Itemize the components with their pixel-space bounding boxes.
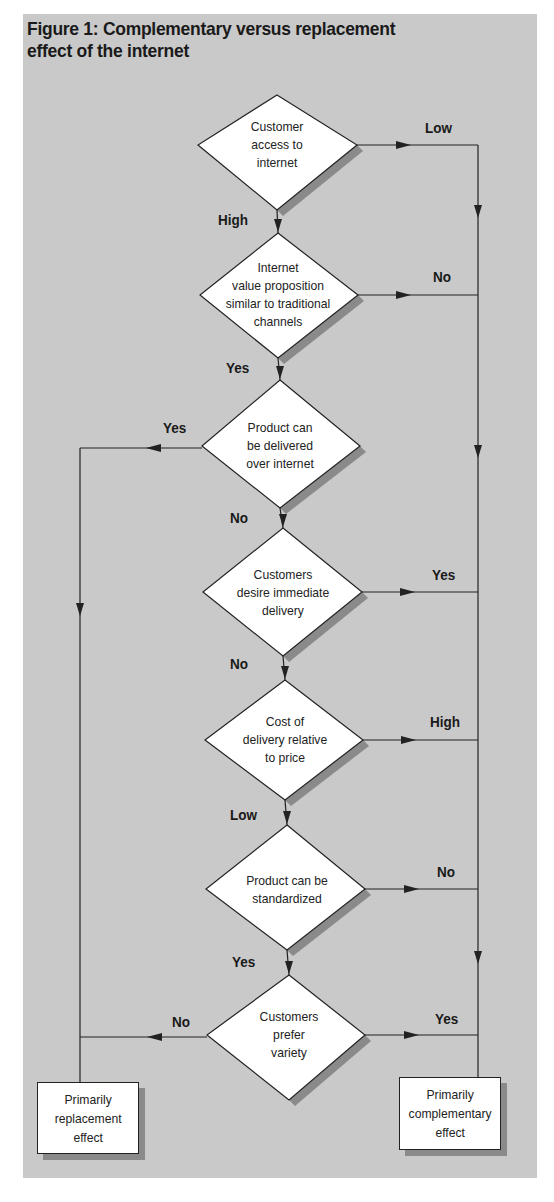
text-line: similar to traditional — [211, 295, 346, 313]
edge-label-yes: Yes — [163, 419, 186, 436]
text-line: internet — [223, 154, 331, 172]
text-line: effect — [408, 1123, 491, 1142]
decision-text-customer-access: Customer access to internet — [223, 118, 331, 172]
text-line: replacement — [55, 1109, 122, 1128]
text-line: Cost of — [222, 713, 348, 731]
text-line: channels — [211, 313, 346, 331]
edge-label-yes: Yes — [232, 953, 255, 970]
edge-label-high: High — [218, 211, 248, 228]
text-line: variety — [235, 1044, 343, 1062]
text-line: prefer — [235, 1026, 343, 1044]
text-line: Product can — [226, 419, 334, 437]
text-line: delivery — [220, 602, 346, 620]
text-line: delivery relative — [222, 731, 348, 749]
text-line: Customers — [235, 1008, 343, 1026]
text-line: Primarily — [408, 1085, 491, 1104]
outcome-text: Primarily complementary effect — [408, 1085, 491, 1142]
edge-label-yes: Yes — [435, 1010, 458, 1027]
edge-label-no: No — [230, 655, 248, 672]
outcome-box-replacement: Primarily replacement effect — [37, 1082, 139, 1154]
decision-text-prefer-variety: Customers prefer variety — [235, 1008, 343, 1062]
text-line: access to — [223, 136, 331, 154]
edge-label-low: Low — [425, 119, 452, 136]
decision-text-deliverable-online: Product can be delivered over internet — [226, 419, 334, 473]
edge-label-yes: Yes — [226, 359, 249, 376]
text-line: Internet — [211, 259, 346, 277]
text-line: complementary — [408, 1104, 491, 1123]
text-line: Customers — [220, 566, 346, 584]
edge-label-low: Low — [230, 806, 257, 823]
edge-label-high: High — [430, 713, 460, 730]
text-line: effect — [55, 1128, 122, 1147]
text-line: desire immediate — [220, 584, 346, 602]
outcome-box-complementary: Primarily complementary effect — [399, 1077, 501, 1150]
edge-label-no: No — [230, 509, 248, 526]
decision-text-immediate-delivery: Customers desire immediate delivery — [220, 566, 346, 620]
text-line: over internet — [226, 455, 334, 473]
edge-label-no: No — [437, 863, 455, 880]
decision-text-delivery-cost: Cost of delivery relative to price — [222, 713, 348, 767]
edge-label-yes: Yes — [432, 566, 455, 583]
text-line: be delivered — [226, 437, 334, 455]
edge-label-no: No — [172, 1013, 190, 1030]
edge-label-no: No — [433, 268, 451, 285]
decision-text-value-proposition: Internet value proposition similar to tr… — [211, 259, 346, 331]
text-line: Customer — [223, 118, 331, 136]
text-line: standardized — [224, 890, 350, 908]
text-line: to price — [222, 749, 348, 767]
text-line: Product can be — [224, 872, 350, 890]
text-line: Primarily — [55, 1090, 122, 1109]
decision-text-standardized: Product can be standardized — [224, 872, 350, 908]
outcome-text: Primarily replacement effect — [55, 1090, 122, 1147]
text-line: value proposition — [211, 277, 346, 295]
